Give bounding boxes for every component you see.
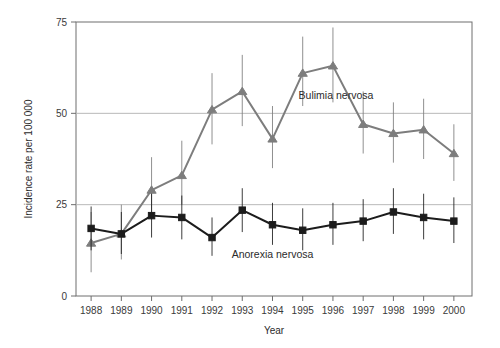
marker-anorexia-nervosa-1990 bbox=[148, 212, 154, 218]
marker-anorexia-nervosa-1999 bbox=[420, 214, 426, 220]
xtick-label-1993: 1993 bbox=[231, 305, 254, 316]
xtick-label-1991: 1991 bbox=[171, 305, 194, 316]
marker-bulimia-nervosa-1991 bbox=[177, 171, 186, 178]
xtick-label-1995: 1995 bbox=[292, 305, 315, 316]
marker-anorexia-nervosa-1992 bbox=[209, 234, 215, 240]
marker-bulimia-nervosa-1994 bbox=[268, 135, 277, 142]
y-axis-title: Incidence rate per 100 000 bbox=[23, 99, 34, 218]
xtick-label-1997: 1997 bbox=[352, 305, 375, 316]
marker-anorexia-nervosa-1994 bbox=[269, 222, 275, 228]
xtick-label-1988: 1988 bbox=[80, 305, 103, 316]
marker-anorexia-nervosa-1993 bbox=[239, 207, 245, 213]
x-axis-title: Year bbox=[264, 325, 285, 336]
xtick-label-1994: 1994 bbox=[261, 305, 284, 316]
incidence-rate-line-chart: 0255075198819891990199119921993199419951… bbox=[0, 0, 500, 348]
marker-bulimia-nervosa-1997 bbox=[359, 120, 368, 127]
marker-anorexia-nervosa-1995 bbox=[300, 227, 306, 233]
chart-page: 0255075198819891990199119921993199419951… bbox=[0, 0, 500, 348]
series-label-bulimia-nervosa: Bulimia nervosa bbox=[299, 89, 374, 101]
xtick-label-2000: 2000 bbox=[443, 305, 466, 316]
marker-anorexia-nervosa-1998 bbox=[390, 209, 396, 215]
marker-anorexia-nervosa-1989 bbox=[118, 231, 124, 237]
xtick-label-1998: 1998 bbox=[382, 305, 405, 316]
series-anorexia-nervosa bbox=[88, 188, 457, 256]
xtick-label-1989: 1989 bbox=[110, 305, 133, 316]
marker-anorexia-nervosa-1997 bbox=[360, 218, 366, 224]
ytick-label-0: 0 bbox=[61, 291, 67, 302]
xtick-label-1992: 1992 bbox=[201, 305, 224, 316]
xtick-label-1999: 1999 bbox=[413, 305, 436, 316]
marker-anorexia-nervosa-1988 bbox=[88, 225, 94, 231]
marker-anorexia-nervosa-1996 bbox=[330, 222, 336, 228]
marker-bulimia-nervosa-1993 bbox=[238, 87, 247, 94]
xtick-label-1996: 1996 bbox=[322, 305, 345, 316]
xtick-label-1990: 1990 bbox=[140, 305, 163, 316]
ytick-label-50: 50 bbox=[56, 108, 68, 119]
marker-anorexia-nervosa-1991 bbox=[179, 214, 185, 220]
ytick-label-25: 25 bbox=[56, 199, 68, 210]
marker-anorexia-nervosa-2000 bbox=[451, 218, 457, 224]
marker-bulimia-nervosa-1996 bbox=[328, 62, 337, 69]
series-label-anorexia-nervosa: Anorexia nervosa bbox=[232, 248, 314, 260]
ytick-label-75: 75 bbox=[56, 17, 68, 28]
